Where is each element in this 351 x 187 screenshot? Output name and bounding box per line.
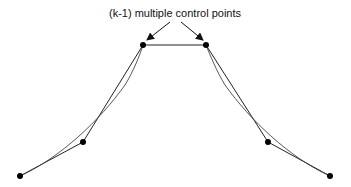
annotation-label: (k-1) multiple control points [109,7,242,19]
arrow-right-icon [181,22,203,40]
arrow-left-icon [147,22,170,40]
b-spline-diagram: (k-1) multiple control points [0,0,351,187]
curve-right-segment [206,45,330,176]
control-point [203,42,209,48]
control-point [80,139,86,145]
control-point [327,173,333,179]
curve-left-segment [20,45,143,176]
control-point [17,173,23,179]
control-point [140,42,146,48]
control-polygon [20,45,330,176]
control-point [265,139,271,145]
